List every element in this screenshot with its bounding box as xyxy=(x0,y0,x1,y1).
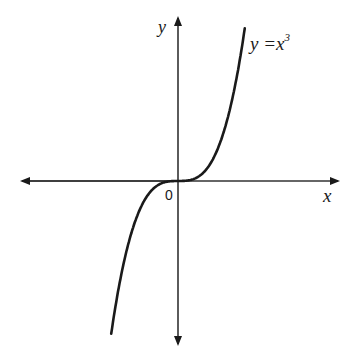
cubic-function-graph: y x 0 y =x3 xyxy=(0,0,356,357)
origin-label: 0 xyxy=(165,187,173,203)
x-axis-label: x xyxy=(322,185,332,206)
curve-label: y =x3 xyxy=(248,31,290,54)
curve-label-exponent: 3 xyxy=(283,31,290,43)
y-axis-label: y xyxy=(156,17,166,37)
curve-label-text: y =x xyxy=(248,33,285,54)
